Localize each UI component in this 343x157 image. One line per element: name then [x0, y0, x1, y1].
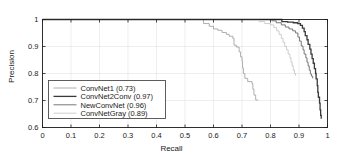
x-tick-label: 0.2 — [94, 131, 104, 140]
x-tick-label: 0.7 — [237, 131, 247, 140]
x-tick-label: 0 — [40, 131, 44, 140]
x-tick-label: 0.1 — [66, 131, 76, 140]
y-tick-label: 0.8 — [28, 69, 38, 78]
legend-label-3: ConvNetGray (0.89) — [81, 109, 149, 118]
curve-series-3 — [43, 20, 296, 76]
legend-box: ConvNet1 (0.73)ConvNet2Conv (0.97)NewCon… — [49, 81, 166, 119]
x-axis-label: Recall — [0, 144, 343, 153]
x-tick-label: 0.3 — [123, 131, 133, 140]
y-axis-label: Precision — [7, 38, 16, 96]
curve-series-2 — [43, 20, 313, 79]
chart-canvas: 00.10.20.30.40.50.60.70.80.910.60.70.80.… — [0, 0, 343, 157]
y-tick-label: 0.6 — [28, 123, 38, 132]
y-tick-label: 0.9 — [28, 42, 38, 51]
x-tick-label: 0.6 — [208, 131, 218, 140]
x-tick-label: 0.4 — [151, 131, 161, 140]
precision-recall-figure: 00.10.20.30.40.50.60.70.80.910.60.70.80.… — [0, 0, 343, 157]
x-tick-label: 1 — [325, 131, 329, 140]
x-tick-label: 0.9 — [294, 131, 304, 140]
x-tick-label: 0.5 — [180, 131, 190, 140]
y-tick-label: 0.7 — [28, 96, 38, 105]
x-tick-label: 0.8 — [265, 131, 275, 140]
tick-labels: 00.10.20.30.40.50.60.70.80.910.60.70.80.… — [28, 15, 330, 139]
y-tick-label: 1 — [34, 15, 38, 24]
